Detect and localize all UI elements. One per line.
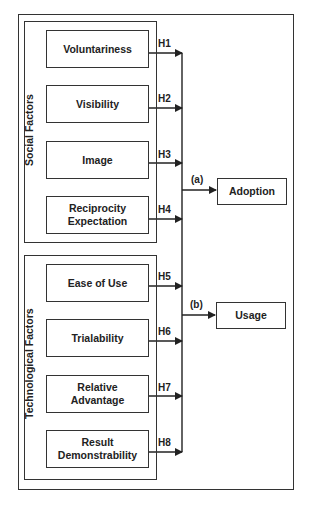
- factor-trialability: Trialability: [46, 319, 149, 357]
- factor-reciprocity-expectation: Reciprocity Expectation: [46, 196, 149, 234]
- path-label-a: (a): [191, 174, 203, 185]
- hypothesis-label-h7: H7: [158, 382, 171, 393]
- factor-label: Result Demonstrability: [50, 436, 146, 462]
- outcome-usage: Usage: [216, 302, 286, 329]
- hypothesis-label-h8: H8: [158, 437, 171, 448]
- social-factors-label: Social Factors: [23, 90, 35, 170]
- hypothesis-label-h6: H6: [158, 326, 171, 337]
- hypothesis-label-h1: H1: [158, 38, 171, 49]
- outcome-label: Adoption: [229, 185, 275, 198]
- factor-ease-of-use: Ease of Use: [46, 264, 149, 302]
- factor-label: Reciprocity Expectation: [58, 202, 138, 228]
- factor-result-demonstrability: Result Demonstrability: [46, 430, 149, 468]
- hypothesis-label-h5: H5: [158, 271, 171, 282]
- factor-label: Image: [82, 154, 112, 167]
- factor-voluntariness: Voluntariness: [46, 30, 149, 68]
- outcome-adoption: Adoption: [217, 178, 287, 205]
- technological-factors-label: Technological Factors: [23, 313, 35, 419]
- hypothesis-label-h3: H3: [158, 149, 171, 160]
- factor-label: Voluntariness: [63, 43, 132, 56]
- path-label-b: (b): [190, 299, 203, 310]
- factor-label: Ease of Use: [68, 277, 128, 290]
- factor-visibility: Visibility: [46, 85, 149, 123]
- factor-label: Visibility: [76, 98, 119, 111]
- hypothesis-label-h4: H4: [158, 204, 171, 215]
- outcome-label: Usage: [235, 309, 267, 322]
- hypothesis-label-h2: H2: [158, 93, 171, 104]
- factor-image: Image: [46, 141, 149, 179]
- factor-label: Relative Advantage: [63, 381, 133, 407]
- factor-label: Trialability: [72, 332, 124, 345]
- factor-relative-advantage: Relative Advantage: [46, 375, 149, 413]
